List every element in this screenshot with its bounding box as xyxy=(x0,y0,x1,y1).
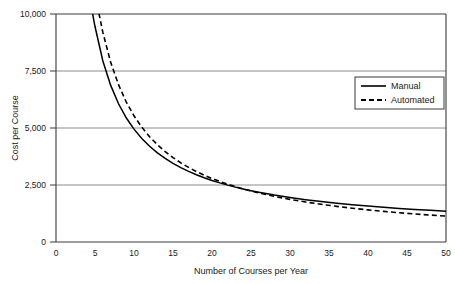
x-tick-label-45: 45 xyxy=(402,248,412,258)
x-tick-label-50: 50 xyxy=(441,248,451,258)
y-axis-title: Cost per Course xyxy=(10,95,20,161)
x-tick-label-15: 15 xyxy=(168,248,178,258)
x-tick-label-20: 20 xyxy=(207,248,217,258)
x-tick-label-35: 35 xyxy=(324,248,334,258)
y-tick-label-7500: 7,500 xyxy=(25,66,47,76)
cost-per-course-line-chart: 10,000 7,500 5,000 2,500 0 Cost per Cour… xyxy=(0,0,455,284)
y-tick-label-0: 0 xyxy=(41,237,46,247)
legend-label-manual: Manual xyxy=(391,81,421,91)
x-tick-label-5: 5 xyxy=(93,248,98,258)
x-tick-label-10: 10 xyxy=(129,248,139,258)
x-tick-label-40: 40 xyxy=(363,248,373,258)
y-tick-label-10000: 10,000 xyxy=(20,9,46,19)
legend-label-automated: Automated xyxy=(391,95,435,105)
y-tick-label-2500: 2,500 xyxy=(25,180,47,190)
chart-background xyxy=(0,0,455,284)
chart-figure: 10,000 7,500 5,000 2,500 0 Cost per Cour… xyxy=(0,0,455,284)
x-axis-title: Number of Courses per Year xyxy=(194,266,308,276)
legend: Manual Automated xyxy=(355,77,444,109)
x-tick-label-30: 30 xyxy=(285,248,295,258)
y-tick-label-5000: 5,000 xyxy=(25,123,47,133)
x-tick-label-0: 0 xyxy=(54,248,59,258)
x-tick-label-25: 25 xyxy=(246,248,256,258)
